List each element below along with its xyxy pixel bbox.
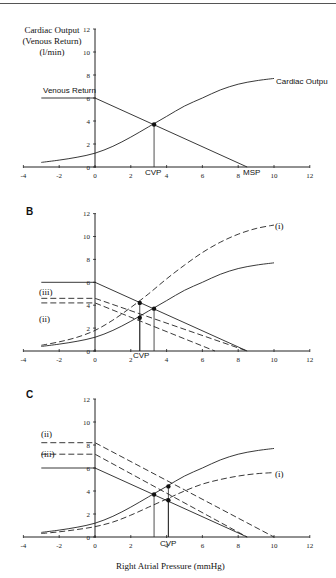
cvp-label-c: CVP [160, 539, 176, 548]
msp-label: MSP [243, 168, 260, 177]
series-label-c-i: (i) [275, 469, 284, 479]
venous-return-label: Venous Return [43, 86, 96, 95]
cvp-label-a: CVP [145, 168, 161, 177]
y-axis-label-line1: Cardiac Output [24, 25, 80, 35]
x-axis-label: Right Atrial Pressure (mmHg) [116, 561, 225, 571]
series-label-c-ii: (ii) [41, 429, 52, 439]
y-axis-label-line2: (Venous Return) [22, 36, 81, 46]
panel-label-b: B [26, 206, 33, 217]
cardiac-output-label: Cardiac Outpu [276, 77, 328, 86]
cvp-label-b: CVP [133, 351, 149, 360]
series-label-b-ii: (ii) [39, 314, 50, 324]
series-label-b-iii: (iii) [39, 287, 53, 297]
series-label-c-iii: (iii) [41, 449, 55, 459]
panel-label-c: C [26, 389, 33, 400]
series-label-b-i: (i) [275, 221, 284, 231]
chart-labels: Cardiac Output (Venous Return) (l/min) V… [0, 0, 336, 578]
y-axis-label-line3: (l/min) [40, 47, 65, 57]
